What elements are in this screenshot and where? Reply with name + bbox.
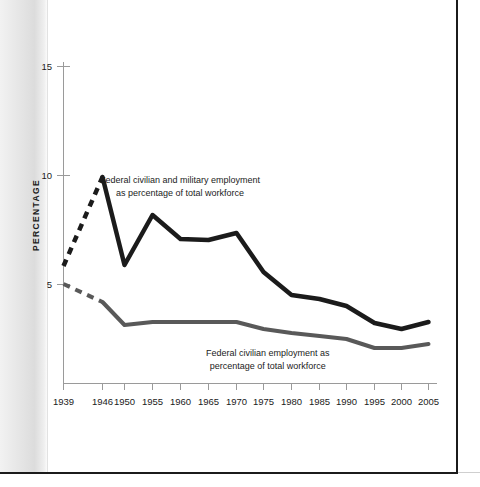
page-border-bottom (0, 472, 458, 474)
x-tick-2000: 2000 (387, 396, 417, 407)
x-tick-1970: 1970 (222, 396, 252, 407)
annotation-civilian-employment: Federal civilian employment as percentag… (206, 347, 330, 372)
x-tick-1939: 1939 (49, 396, 79, 407)
x-tick-1955: 1955 (138, 396, 168, 407)
series-total-dashed-segment (64, 177, 103, 266)
y-axis-title: PERCENTAGE (31, 179, 41, 251)
x-tick-1960: 1960 (166, 396, 196, 407)
x-tick-1975: 1975 (249, 396, 279, 407)
page-border-right (456, 0, 458, 474)
y-tick-10: 10 (30, 170, 52, 181)
annotation-total-employment-line1: Federal civilian and military employment (100, 174, 260, 187)
page-border-bottom-extension (458, 472, 480, 473)
annotation-civilian-employment-line2: percentage of total workforce (206, 360, 330, 373)
figure-federal-employment-chart: PERCENTAGE 15 10 5 1939 1946 1950 1955 1… (0, 0, 480, 487)
annotation-civilian-employment-line1: Federal civilian employment as (206, 347, 330, 360)
x-tick-1950: 1950 (110, 396, 140, 407)
x-tick-1990: 1990 (332, 396, 362, 407)
page: PERCENTAGE 15 10 5 1939 1946 1950 1955 1… (0, 0, 480, 487)
y-tick-5: 5 (30, 279, 52, 290)
series-civilian-dashed-segment (64, 284, 103, 302)
series-total-line (103, 177, 429, 329)
annotation-total-employment-line2: as percentage of total workforce (100, 187, 260, 200)
x-tick-1995: 1995 (360, 396, 390, 407)
x-tick-1985: 1985 (305, 396, 335, 407)
x-tick-1965: 1965 (194, 396, 224, 407)
x-axis-ticks (64, 383, 429, 390)
y-tick-15: 15 (30, 61, 52, 72)
x-tick-2005: 2005 (414, 396, 444, 407)
line-chart-svg (0, 0, 480, 487)
x-tick-1980: 1980 (277, 396, 307, 407)
annotation-total-employment: Federal civilian and military employment… (100, 174, 260, 199)
